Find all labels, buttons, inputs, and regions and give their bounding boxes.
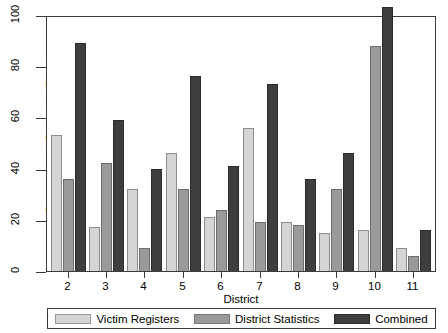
y-axis-tick-label: 40 [9, 153, 21, 183]
bar [331, 189, 342, 271]
bar-group [358, 17, 393, 271]
bar [370, 46, 381, 271]
bar [178, 189, 189, 271]
bar [113, 120, 124, 271]
bar [63, 179, 74, 271]
bar [343, 153, 354, 271]
bar-chart-figure: Frequency of Recorded Deaths District Vi… [0, 0, 448, 333]
bar [127, 189, 138, 271]
bar [319, 233, 330, 271]
y-axis-tick [36, 170, 46, 171]
bar [243, 128, 254, 271]
x-axis-tick [68, 272, 69, 278]
x-axis-title: District [46, 293, 436, 305]
bar [151, 169, 162, 271]
bar-group [281, 17, 316, 271]
bar-group [319, 17, 354, 271]
bar [139, 248, 150, 271]
x-axis-tick-label: 6 [206, 280, 236, 292]
bar [305, 179, 316, 271]
bar [420, 230, 431, 271]
bar [190, 76, 201, 271]
x-axis-tick-label: 5 [168, 280, 198, 292]
y-axis-tick [36, 118, 46, 119]
bar [267, 84, 278, 271]
legend-swatch [194, 314, 230, 324]
legend-item: Combined [334, 313, 427, 325]
x-axis-tick [413, 272, 414, 278]
bar [382, 7, 393, 271]
x-axis-tick [106, 272, 107, 278]
bar-group [396, 17, 431, 271]
x-axis-tick [375, 272, 376, 278]
chart-legend: Victim RegistersDistrict StatisticsCombi… [47, 308, 436, 329]
bar [216, 210, 227, 271]
plot-area [46, 16, 436, 272]
bar-group [204, 17, 239, 271]
x-axis-tick [183, 272, 184, 278]
x-axis-tick-label: 2 [53, 280, 83, 292]
legend-label: Victim Registers [96, 313, 179, 325]
bar [293, 225, 304, 271]
bar-group [127, 17, 162, 271]
y-axis-tick-label: 100 [9, 0, 21, 29]
legend-item: Victim Registers [55, 313, 179, 325]
y-axis-tick-label: 20 [9, 204, 21, 234]
bar-group [51, 17, 86, 271]
bar [396, 248, 407, 271]
x-axis-tick [221, 272, 222, 278]
bar [75, 43, 86, 271]
legend-swatch [55, 314, 91, 324]
y-axis-tick-label: 60 [9, 101, 21, 131]
bar [358, 230, 369, 271]
bar [51, 135, 62, 271]
x-axis-tick-label: 7 [245, 280, 275, 292]
x-axis-tick-label: 11 [398, 280, 428, 292]
bar-group [166, 17, 201, 271]
bar [204, 217, 215, 271]
bar [281, 222, 292, 271]
x-axis-tick-label: 8 [283, 280, 313, 292]
legend-label: District Statistics [235, 313, 319, 325]
y-axis-tick [36, 16, 46, 17]
bar [166, 153, 177, 271]
x-axis-tick [336, 272, 337, 278]
legend-swatch [334, 314, 370, 324]
bar [255, 222, 266, 271]
x-axis-tick [144, 272, 145, 278]
y-axis-tick [36, 67, 46, 68]
legend-item: District Statistics [194, 313, 319, 325]
bar-group [243, 17, 278, 271]
x-axis-tick-label: 9 [321, 280, 351, 292]
bar [408, 256, 419, 271]
bar-group [89, 17, 124, 271]
x-axis-tick-label: 10 [360, 280, 390, 292]
x-axis-tick [260, 272, 261, 278]
bar-groups [47, 17, 435, 271]
y-axis-tick [36, 272, 46, 273]
bar [228, 166, 239, 271]
legend-label: Combined [375, 313, 427, 325]
x-axis-tick-label: 3 [91, 280, 121, 292]
y-axis-tick-label: 80 [9, 50, 21, 80]
x-axis-tick-label: 4 [129, 280, 159, 292]
bar [89, 227, 100, 271]
y-axis-tick-label: 0 [9, 255, 21, 285]
x-axis-tick [298, 272, 299, 278]
bar [101, 163, 112, 271]
y-axis-tick [36, 221, 46, 222]
